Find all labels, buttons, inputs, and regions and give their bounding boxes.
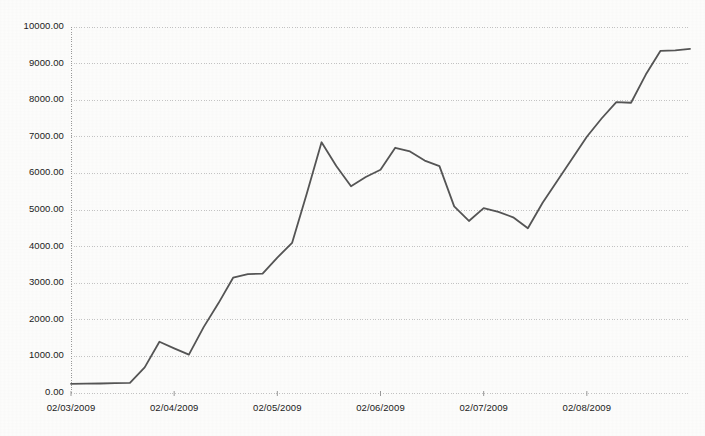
x-axis-tick-label: 02/06/2009 bbox=[341, 402, 421, 413]
x-axis-tick-label: 02/07/2009 bbox=[444, 402, 524, 413]
y-axis-tick-label: 7000.00 bbox=[2, 130, 64, 141]
x-axis-tick-label: 02/08/2009 bbox=[547, 402, 627, 413]
y-axis-tick-label: 0.00 bbox=[2, 386, 64, 397]
y-axis-tick-label: 6000.00 bbox=[2, 166, 64, 177]
x-axis-tick-label: 02/04/2009 bbox=[134, 402, 214, 413]
x-axis-tick-label: 02/03/2009 bbox=[31, 402, 111, 413]
y-axis-tick-label: 10000.00 bbox=[2, 20, 64, 31]
y-axis-tick-label: 9000.00 bbox=[2, 57, 64, 68]
x-axis-tick-label: 02/05/2009 bbox=[237, 402, 317, 413]
y-axis-tick-label: 3000.00 bbox=[2, 276, 64, 287]
line-chart: 0.001000.002000.003000.004000.005000.006… bbox=[0, 0, 705, 436]
y-axis-tick-label: 1000.00 bbox=[2, 349, 64, 360]
y-axis-tick-label: 4000.00 bbox=[2, 240, 64, 251]
data-series-line bbox=[71, 49, 690, 384]
y-axis-tick-label: 5000.00 bbox=[2, 203, 64, 214]
chart-plot-area bbox=[0, 0, 705, 436]
y-axis-tick-label: 8000.00 bbox=[2, 93, 64, 104]
y-axis-tick-label: 2000.00 bbox=[2, 313, 64, 324]
